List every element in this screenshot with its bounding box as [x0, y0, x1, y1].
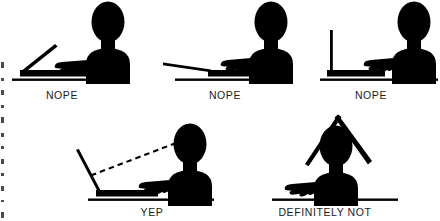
caption-yep: YEP	[141, 206, 164, 218]
laptop-base	[327, 70, 385, 77]
caption-nope-3: NOPE	[355, 89, 387, 101]
desk-line-2	[175, 79, 293, 81]
head-shape	[320, 126, 353, 167]
caption-nope-2: NOPE	[209, 89, 241, 101]
caption-nope-1: NOPE	[46, 89, 78, 101]
infographic-canvas: NOPE NOPE	[0, 0, 440, 221]
laptop-base	[96, 190, 158, 197]
laptop-screen	[330, 30, 333, 72]
head-shape	[174, 124, 207, 165]
head-shape	[92, 2, 125, 43]
caption-definitely-not: DEFINITELY NOT	[278, 206, 371, 218]
background	[0, 0, 440, 221]
desk-line-5	[272, 199, 398, 201]
desk-line-1	[12, 79, 130, 81]
head-shape	[255, 2, 288, 43]
comic-illustration: NOPE NOPE	[0, 0, 440, 221]
desk-line-3	[320, 79, 438, 81]
head-shape	[398, 2, 431, 43]
laptop-base	[208, 70, 258, 77]
desk-line-4	[88, 199, 214, 201]
laptop-base	[20, 70, 86, 77]
